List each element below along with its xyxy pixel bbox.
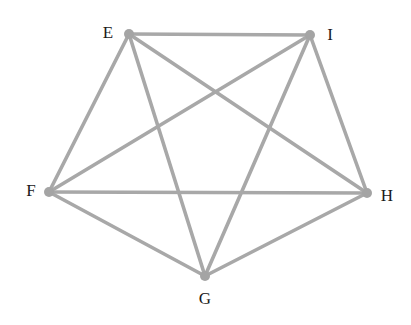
node-label-i: I (327, 25, 333, 44)
node-label-f: F (26, 181, 35, 200)
edge-f-h (49, 192, 367, 193)
complete-graph-k5: EIFHG (0, 0, 411, 325)
node-f (44, 187, 54, 197)
edge-e-h (129, 34, 367, 193)
node-g (200, 271, 210, 281)
edge-g-h (205, 193, 367, 276)
node-label-e: E (103, 23, 113, 42)
node-e (124, 29, 134, 39)
edge-i-h (310, 35, 367, 193)
node-i (305, 30, 315, 40)
edge-e-i (129, 34, 310, 35)
edge-i-g (205, 35, 310, 276)
node-h (362, 188, 372, 198)
edges (49, 34, 367, 276)
node-label-g: G (199, 289, 211, 308)
node-label-h: H (381, 186, 393, 205)
